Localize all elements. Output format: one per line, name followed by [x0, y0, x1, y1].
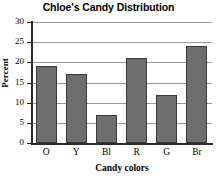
x-axis-tick-label: O: [31, 147, 61, 157]
x-axis-tick-label: Y: [61, 147, 91, 157]
y-axis-tick-label: 20: [2, 56, 24, 66]
x-axis-line: [31, 143, 213, 145]
bar: [126, 58, 147, 143]
bar-chart: Chloe's Candy Distribution Percent Candy…: [0, 0, 217, 182]
bar: [36, 66, 57, 143]
chart-title: Chloe's Candy Distribution: [0, 1, 217, 13]
plot-area: [31, 22, 212, 143]
bar: [96, 115, 117, 143]
y-axis-tick-label: 10: [2, 97, 24, 107]
y-axis-tick-label: 0: [2, 137, 24, 147]
y-axis-tick-label: 30: [2, 16, 24, 26]
y-axis-tick: [27, 62, 32, 63]
y-axis-tick-label: 15: [2, 77, 24, 87]
gridline: [31, 103, 212, 104]
x-axis-title: Candy colors: [31, 163, 213, 173]
x-axis-tick-label: Bl: [91, 147, 121, 157]
gridline: [31, 62, 212, 63]
y-axis-tick: [27, 123, 32, 124]
gridline: [31, 83, 212, 84]
x-axis-tick-label: G: [152, 147, 182, 157]
y-axis-tick: [27, 103, 32, 104]
gridline: [31, 123, 212, 124]
y-axis-tick: [27, 42, 32, 43]
bar: [186, 46, 207, 143]
x-axis-tick-label: Br: [182, 147, 212, 157]
gridline: [31, 42, 212, 43]
y-axis-tick: [27, 83, 32, 84]
gridline: [31, 22, 212, 23]
y-axis-tick: [27, 143, 32, 144]
x-axis-tick-label: R: [122, 147, 152, 157]
y-axis-tick: [27, 22, 32, 23]
y-axis-tick-label: 25: [2, 36, 24, 46]
bar: [66, 74, 87, 143]
bar: [156, 95, 177, 143]
y-axis-tick-label: 5: [2, 117, 24, 127]
